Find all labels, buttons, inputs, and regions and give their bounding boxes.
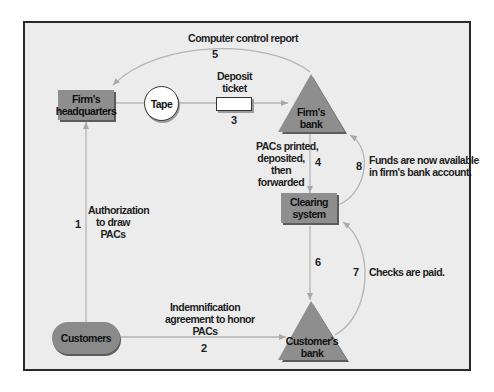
flow-4-label-3: then xyxy=(256,164,306,176)
flow-5-label: Computer control report xyxy=(178,32,308,44)
flow-1-label: Authorization to draw PACs xyxy=(88,204,138,240)
flow-6-number: 6 xyxy=(315,256,321,268)
firms-headquarters-label-2: headquarters xyxy=(56,105,117,117)
flow-1-number: 1 xyxy=(75,218,81,230)
flow-2-label-3: PACs xyxy=(165,325,245,337)
customers-node: Customers xyxy=(52,322,120,354)
flow-1-label-3: PACs xyxy=(88,228,138,240)
flow-4-label-1: PACs printed, xyxy=(256,140,306,152)
clearing-system-label-1: Clearing xyxy=(290,196,328,208)
firms-bank-label-2: bank xyxy=(288,118,334,130)
firms-bank-label: Firm's bank xyxy=(288,106,334,130)
deposit-ticket-label-1: Deposit xyxy=(212,70,257,82)
flow-7-arrow xyxy=(335,222,365,335)
deposit-ticket-label-2: ticket xyxy=(212,82,257,94)
flow-7-label: Checks are paid. xyxy=(369,266,444,278)
clearing-system-node: Clearing system xyxy=(281,193,337,223)
flow-5-number: 5 xyxy=(212,48,218,60)
flow-3-number: 3 xyxy=(231,114,237,126)
flow-4-label-4: forwarded xyxy=(256,176,306,188)
firms-headquarters-label-1: Firm's xyxy=(56,93,117,105)
tape-node: Tape xyxy=(144,86,179,121)
flow-2-label-1: Indemnification xyxy=(165,301,245,313)
flow-4-label-2: deposited, xyxy=(256,152,306,164)
firms-bank-label-1: Firm's xyxy=(288,106,334,118)
flow-4-number: 4 xyxy=(315,156,321,168)
customers-label: Customers xyxy=(61,332,111,344)
flow-8-label-1: Funds are now available xyxy=(369,154,459,166)
tape-label: Tape xyxy=(151,98,173,110)
customers-bank-label-2: bank xyxy=(282,347,342,359)
flow-2-label-2: agreement to honor xyxy=(165,313,245,325)
customers-bank-label-1: Customer's xyxy=(282,335,342,347)
customers-bank-label: Customer's bank xyxy=(282,335,342,359)
flow-8-label: Funds are now available in firm's bank a… xyxy=(369,154,459,178)
clearing-system-label-2: system xyxy=(290,208,328,220)
flow-8-number: 8 xyxy=(356,160,362,172)
flow-7-number: 7 xyxy=(353,266,359,278)
firms-headquarters-node: Firm's headquarters xyxy=(58,90,114,120)
flow-2-label: Indemnification agreement to honor PACs xyxy=(165,301,245,337)
deposit-ticket-node xyxy=(216,97,252,111)
deposit-ticket-label: Deposit ticket xyxy=(212,70,257,94)
flow-1-label-1: Authorization xyxy=(88,204,138,216)
flow-2-number: 2 xyxy=(201,342,207,354)
flow-4-label: PACs printed, deposited, then forwarded xyxy=(256,140,306,188)
flow-1-label-2: to draw xyxy=(88,216,138,228)
flow-8-label-2: in firm's bank account. xyxy=(369,166,459,178)
